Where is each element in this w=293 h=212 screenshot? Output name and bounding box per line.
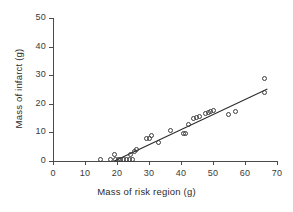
x-tick-label-70: 70 xyxy=(265,168,289,178)
regression-line xyxy=(53,18,277,161)
x-tick-70 xyxy=(277,161,278,165)
x-tick-30 xyxy=(149,161,150,165)
plot-data-area xyxy=(53,18,277,161)
y-axis-title: Mass of infarct (g) xyxy=(13,19,24,159)
x-tick-label-30: 30 xyxy=(137,168,161,178)
y-axis-title-wrapper: Mass of infarct (g) xyxy=(2,0,16,212)
x-tick-10 xyxy=(85,161,86,165)
x-tick-0 xyxy=(53,161,54,165)
data-point xyxy=(149,133,154,138)
data-point xyxy=(156,140,161,145)
y-tick-0 xyxy=(49,161,53,162)
x-axis-title: Mass of risk region (g) xyxy=(0,186,293,197)
data-point xyxy=(134,147,139,152)
x-tick-label-50: 50 xyxy=(201,168,225,178)
x-tick-label-60: 60 xyxy=(233,168,257,178)
data-point xyxy=(112,152,117,157)
scatter-plot-figure: 010203040506070 01020304050 Mass of risk… xyxy=(0,0,293,212)
data-point xyxy=(197,114,202,119)
data-point xyxy=(226,112,231,117)
data-point xyxy=(186,122,191,127)
x-tick-60 xyxy=(245,161,246,165)
x-tick-40 xyxy=(181,161,182,165)
x-tick-label-40: 40 xyxy=(169,168,193,178)
x-tick-label-20: 20 xyxy=(105,168,129,178)
data-point xyxy=(211,108,216,113)
x-tick-label-10: 10 xyxy=(73,168,97,178)
x-axis-line xyxy=(53,161,277,162)
x-tick-50 xyxy=(213,161,214,165)
